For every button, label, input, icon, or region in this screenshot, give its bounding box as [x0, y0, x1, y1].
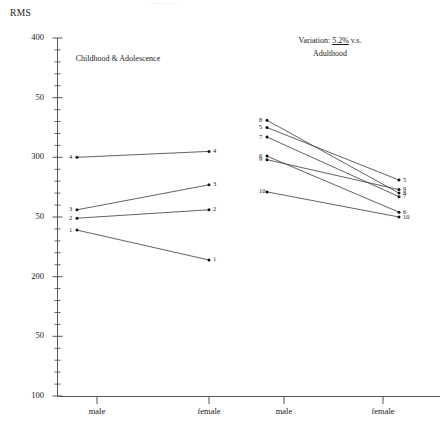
x-tick-label: male [254, 406, 314, 416]
series-label-left: 10 [259, 187, 266, 194]
panel-title-childhood: Childhood & Adolescence [28, 52, 208, 65]
series-label-right: 2 [213, 205, 216, 212]
y-tick-label: 400 [18, 32, 44, 42]
series-label-right: 4 [213, 147, 216, 154]
series-label-left: 7 [259, 133, 262, 140]
y-tick-label: 200 [18, 271, 44, 281]
y-tick-label: 50 [18, 330, 44, 340]
panel-title-adulthood-line1: Variation: 5.2% v.s. [240, 34, 420, 47]
series-label-right: 7 [403, 192, 406, 199]
x-tick-label: female [179, 406, 239, 416]
series-label-left: 9 [259, 155, 262, 162]
y-tick-label: 50 [18, 211, 44, 221]
x-tick-label: male [67, 406, 127, 416]
panel-title-childhood-text: Childhood & Adolescence [76, 54, 160, 63]
slopegraph-figure: .......... RMS 400503005020050100 malefe… [0, 0, 447, 428]
series-label-left: 2 [69, 214, 72, 221]
panel-title-adulthood-line2: Adulthood [240, 47, 420, 60]
panel-title-adulthood: Variation: 5.2% v.s. Adulthood [240, 34, 420, 60]
series-label-right: 9 [403, 185, 406, 192]
variation-prefix: Variation: [299, 36, 331, 45]
series-label-right: 3 [213, 180, 216, 187]
variation-suffix: v.s. [351, 36, 362, 45]
variation-value: 5.2% [332, 36, 349, 45]
x-tick-label: female [353, 406, 413, 416]
y-tick-label: 50 [18, 92, 44, 102]
series-label-left: 1 [69, 226, 72, 233]
series-label-left: 4 [69, 153, 72, 160]
series-label-right: 1 [213, 255, 216, 262]
x-tick-marks [97, 396, 383, 404]
y-tick-label: 100 [18, 390, 44, 400]
series-label-right: 5 [403, 176, 406, 183]
axes [58, 38, 441, 397]
series-label-left: 3 [69, 205, 72, 212]
series-label-left: 8 [259, 116, 262, 123]
data-series [76, 119, 401, 262]
series-label-right: 10 [403, 213, 410, 220]
series-label-left: 5 [259, 123, 262, 130]
y-tick-label: 300 [18, 151, 44, 161]
